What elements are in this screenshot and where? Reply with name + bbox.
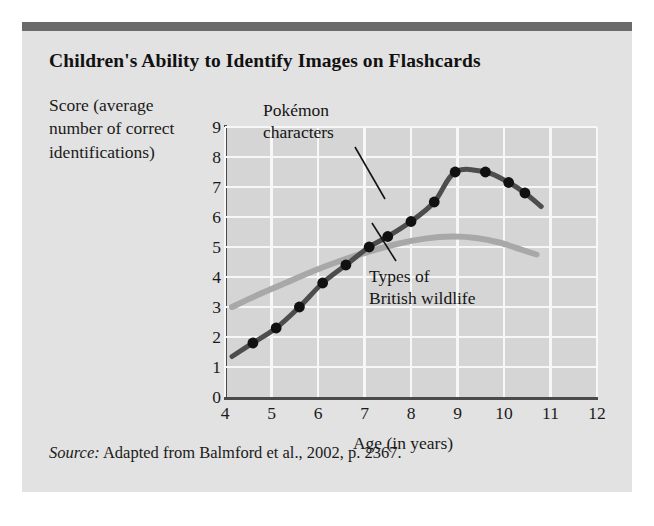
chart-title: Children's Ability to Identify Images on… [49, 50, 609, 72]
pokemon-series-label: Pokémon characters [263, 99, 334, 143]
data-point-marker [364, 242, 375, 253]
data-point-marker [341, 260, 352, 271]
data-point-marker [317, 278, 328, 289]
pokemon-label-line1: Pokémon [263, 99, 334, 121]
source-note: Source: Adapted from Balmford et al., 20… [49, 443, 402, 463]
x-tick-label: 8 [396, 403, 426, 424]
data-point-marker [503, 177, 514, 188]
pokemon-leader-line [355, 147, 385, 199]
source-label: Source: [49, 443, 100, 462]
figure-panel: Children's Ability to Identify Images on… [22, 22, 632, 492]
top-rule-decoration [22, 22, 632, 31]
data-point-marker [480, 167, 491, 178]
wildlife-label-line2: British wildlife [369, 287, 475, 309]
x-tick-label: 5 [257, 403, 287, 424]
y-axis-title: Score (average number of correct identif… [49, 94, 177, 164]
x-tick-label: 11 [536, 403, 566, 424]
data-point-marker [248, 338, 259, 349]
x-tick-label: 6 [303, 403, 333, 424]
x-tick-label: 9 [443, 403, 473, 424]
x-tick-label: 4 [210, 403, 240, 424]
data-point-marker [406, 216, 417, 227]
x-tick-label: 12 [582, 403, 612, 424]
plot-area-wrapper: 9876543210 456789101112 Pokémon characte… [203, 95, 603, 405]
x-tick-label: 10 [489, 403, 519, 424]
data-point-marker [429, 197, 440, 208]
data-point-marker [450, 167, 461, 178]
data-point-marker [520, 188, 531, 199]
wildlife-series-label: Types of British wildlife [369, 265, 475, 309]
source-text: Adapted from Balmford et al., 2002, p. 2… [100, 443, 402, 462]
data-point-marker [382, 231, 393, 242]
wildlife-label-line1: Types of [369, 265, 475, 287]
x-tick-label: 7 [350, 403, 380, 424]
data-point-marker [294, 302, 305, 313]
data-point-marker [271, 323, 282, 334]
pokemon-label-line2: characters [263, 121, 334, 143]
